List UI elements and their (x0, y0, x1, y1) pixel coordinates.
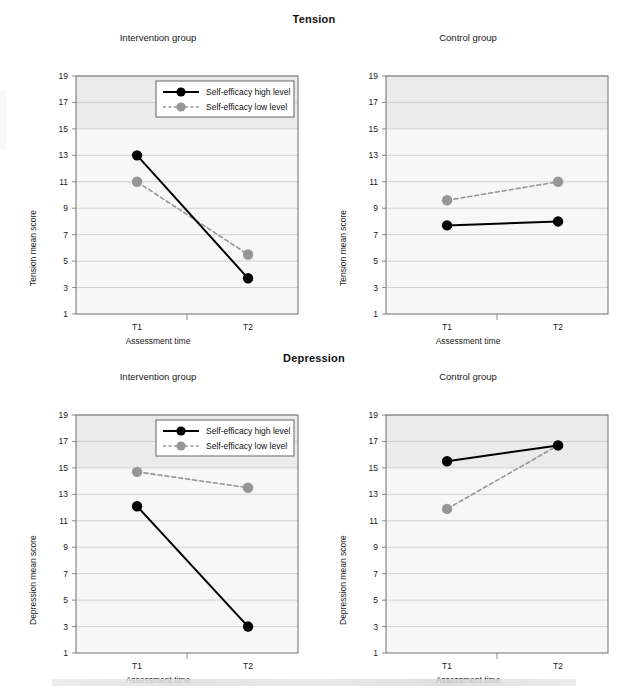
panel-depression-intervention: Intervention group Self-efficacy high le… (8, 371, 308, 676)
chart-canvas (318, 388, 618, 676)
data-point-high-T1 (132, 501, 142, 511)
legend-low-label: Self-efficacy low level (206, 102, 287, 112)
y-axis-tick: 5 (46, 257, 68, 265)
y-axis-label: Tension mean score (338, 210, 348, 286)
y-axis-tick: 11 (356, 178, 378, 186)
y-axis-tick: 7 (46, 231, 68, 239)
y-axis-tick: 19 (46, 411, 68, 419)
y-axis-tick: 19 (356, 72, 378, 80)
x-axis-tick: T2 (233, 322, 263, 332)
y-axis-tick: 17 (356, 98, 378, 106)
y-axis-label: Tension mean score (28, 210, 38, 286)
plot-area: Self-efficacy high levelSelf-efficacy lo… (8, 388, 308, 676)
figure-title-tension: Tension (0, 13, 628, 25)
x-axis-tick: T2 (543, 661, 573, 671)
y-axis-tick: 19 (46, 72, 68, 80)
panel-title: Intervention group (8, 32, 308, 43)
y-axis-tick: 9 (356, 543, 378, 551)
data-point-high-T2 (243, 273, 253, 283)
y-axis-tick: 9 (356, 204, 378, 212)
x-axis-tick: T1 (122, 661, 152, 671)
y-axis-tick: 15 (356, 464, 378, 472)
y-axis-tick: 13 (46, 490, 68, 498)
x-axis-label: Assessment time (318, 336, 618, 346)
y-axis-tick: 17 (356, 437, 378, 445)
legend-low-swatch-marker (176, 102, 185, 111)
y-axis-tick: 3 (356, 623, 378, 631)
panel-title: Control group (318, 371, 618, 382)
y-axis-tick: 13 (46, 151, 68, 159)
data-point-high-T1 (442, 456, 452, 466)
y-axis-label: Depression mean score (338, 535, 348, 625)
data-point-high-T1 (132, 150, 142, 160)
y-axis-tick: 1 (46, 310, 68, 318)
y-axis-tick: 1 (46, 649, 68, 657)
y-axis-tick: 19 (356, 411, 378, 419)
y-axis-tick: 7 (356, 570, 378, 578)
y-axis-label: Depression mean score (28, 535, 38, 625)
y-axis-tick: 13 (356, 151, 378, 159)
chart-canvas: Self-efficacy high levelSelf-efficacy lo… (8, 388, 308, 676)
panel-depression-control: Control group 191715131197531T1T2Assessm… (318, 371, 618, 676)
data-point-low-T1 (442, 504, 452, 514)
y-axis-tick: 15 (46, 464, 68, 472)
chart-legend: Self-efficacy high levelSelf-efficacy lo… (156, 81, 294, 117)
y-axis-tick: 11 (46, 178, 68, 186)
y-axis-tick: 3 (46, 284, 68, 292)
y-axis-tick: 5 (356, 596, 378, 604)
y-axis-tick: 3 (46, 623, 68, 631)
chart-canvas: Self-efficacy high levelSelf-efficacy lo… (8, 49, 308, 337)
y-axis-tick: 9 (46, 204, 68, 212)
y-axis-tick: 17 (46, 437, 68, 445)
y-axis-tick: 13 (356, 490, 378, 498)
x-axis-label: Assessment time (8, 336, 308, 346)
panel-title: Control group (318, 32, 618, 43)
y-axis-tick: 3 (356, 284, 378, 292)
data-point-low-T1 (442, 195, 452, 205)
x-axis-tick: T1 (432, 322, 462, 332)
x-axis-tick: T1 (122, 322, 152, 332)
data-point-high-T2 (553, 216, 563, 226)
scan-artifact-left (0, 90, 6, 150)
data-point-low-T2 (553, 177, 563, 187)
figure-title-depression: Depression (0, 352, 628, 364)
data-point-high-T2 (243, 621, 253, 631)
x-axis-tick: T2 (233, 661, 263, 671)
y-axis-tick: 7 (46, 570, 68, 578)
y-axis-tick: 15 (46, 125, 68, 133)
y-axis-tick: 11 (46, 517, 68, 525)
x-axis-tick: T2 (543, 322, 573, 332)
data-point-low-T2 (243, 483, 253, 493)
legend-high-label: Self-efficacy high level (206, 426, 291, 436)
plot-area (318, 49, 618, 337)
y-axis-tick: 1 (356, 649, 378, 657)
panel-tension-intervention: Intervention group Self-efficacy high le… (8, 32, 308, 337)
y-axis-tick: 15 (356, 125, 378, 133)
legend-low-label: Self-efficacy low level (206, 441, 287, 451)
y-axis-tick: 5 (46, 596, 68, 604)
chart-canvas (318, 49, 618, 337)
legend-high-swatch-marker (176, 426, 185, 435)
data-point-low-T2 (243, 249, 253, 259)
data-point-high-T2 (553, 440, 563, 450)
plot-area: Self-efficacy high levelSelf-efficacy lo… (8, 49, 308, 337)
data-point-low-T1 (132, 467, 142, 477)
legend-high-swatch-marker (176, 87, 185, 96)
y-axis-tick: 7 (356, 231, 378, 239)
panel-tension-control: Control group 191715131197531T1T2Assessm… (318, 32, 618, 337)
plot-area (318, 388, 618, 676)
legend-high-label: Self-efficacy high level (206, 87, 291, 97)
legend-low-swatch-marker (176, 441, 185, 450)
y-axis-tick: 5 (356, 257, 378, 265)
x-axis-tick: T1 (432, 661, 462, 671)
chart-legend: Self-efficacy high levelSelf-efficacy lo… (156, 420, 294, 456)
data-point-high-T1 (442, 220, 452, 230)
data-point-low-T1 (132, 177, 142, 187)
y-axis-tick: 11 (356, 517, 378, 525)
panel-title: Intervention group (8, 371, 308, 382)
y-axis-tick: 9 (46, 543, 68, 551)
y-axis-tick: 1 (356, 310, 378, 318)
scan-artifact-bottom-band (52, 679, 576, 686)
y-axis-tick: 17 (46, 98, 68, 106)
